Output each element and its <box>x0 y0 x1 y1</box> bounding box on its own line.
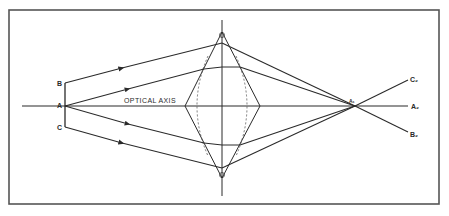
image-label-c2: C₂ <box>410 76 418 83</box>
point-label-a: A <box>57 102 62 109</box>
optical-axis-label: OPTICAL AXIS <box>124 97 176 104</box>
ray-b-continued <box>355 106 408 132</box>
image-label-b2: B₂ <box>410 131 418 138</box>
ray-c-incident <box>65 127 122 143</box>
ray-a-upper-incident <box>65 89 128 106</box>
ray-a-upper-incident-2 <box>128 69 204 89</box>
point-label-b: B <box>57 80 62 87</box>
focus-label-a1: A₁ <box>349 98 355 104</box>
image-label-a2: A₂ <box>411 103 419 110</box>
ray-c-continued <box>355 80 408 106</box>
ray-c-refracted <box>222 106 355 168</box>
ray-a-lower-incident <box>65 106 128 124</box>
ray-a-lower-incident-2 <box>128 124 204 143</box>
ray-b-refracted <box>222 43 355 106</box>
optical-ray-diagram: OPTICAL AXIS B A C A₁ C₂ A₂ B₂ <box>0 0 449 216</box>
ray-b-incident <box>65 68 122 83</box>
ray-b-incident-2 <box>122 43 222 68</box>
ray-c-incident-2 <box>122 143 222 168</box>
point-label-c: C <box>57 124 62 131</box>
